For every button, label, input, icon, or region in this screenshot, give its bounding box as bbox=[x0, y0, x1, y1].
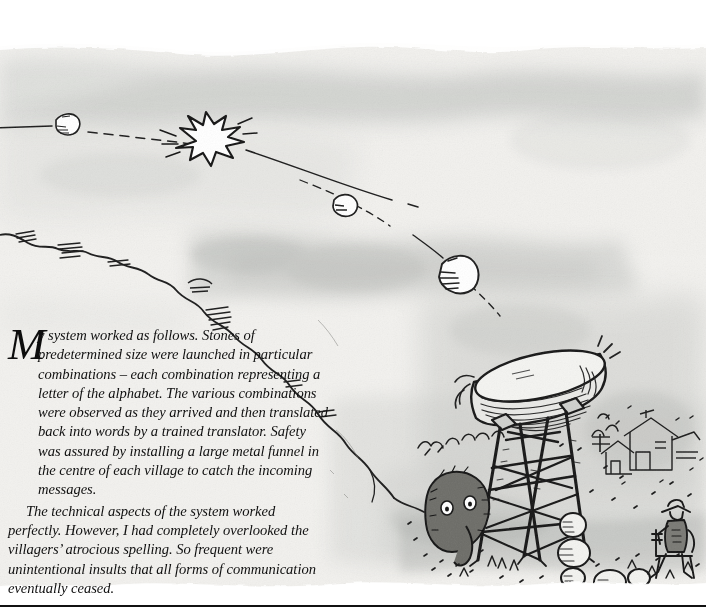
paragraph-1: y system worked as follows. Stones of pr… bbox=[8, 326, 330, 500]
paragraph-2: The technical aspects of the system work… bbox=[8, 502, 330, 598]
body-text: M y system worked as follows. Stones of … bbox=[8, 326, 330, 598]
book-page: M y system worked as follows. Stones of … bbox=[0, 0, 706, 616]
footer-rule bbox=[0, 605, 706, 607]
drop-cap: M bbox=[8, 322, 46, 367]
